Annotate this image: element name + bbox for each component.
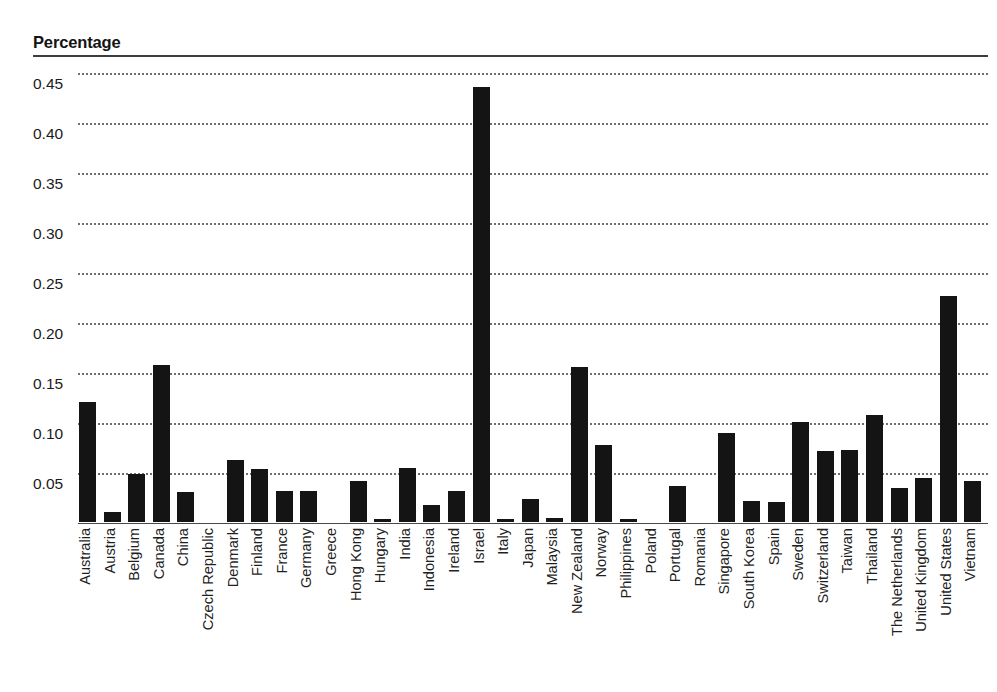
x-axis-tick-label: Singapore (717, 528, 732, 678)
x-axis-tick-label: Vietnam (963, 528, 978, 678)
y-axis-tick-label: 0.35 (33, 176, 75, 192)
bar (546, 518, 563, 522)
x-axis-tick-label: The Netherlands (890, 528, 905, 678)
chart-header: Percentage (33, 33, 988, 57)
x-axis-tick-label: Canada (152, 528, 167, 678)
x-axis-tick-labels: AustraliaAustriaBelgiumCanadaChinaCzech … (78, 528, 997, 678)
x-axis-tick-label: Portugal (668, 528, 683, 678)
bar (251, 469, 268, 522)
bar (350, 481, 367, 522)
bar (571, 367, 588, 522)
bar (866, 415, 883, 522)
bar (374, 519, 391, 522)
x-axis-tick-label: Hungary (373, 528, 388, 678)
bar (669, 486, 686, 522)
x-axis-tick-label: Poland (644, 528, 659, 678)
chart-figure: Percentage 0.450.400.350.300.250.200.150… (0, 0, 997, 692)
bar (915, 478, 932, 522)
x-axis-tick-label: Belgium (127, 528, 142, 678)
x-axis-tick-label: Australia (78, 528, 93, 678)
bar (399, 468, 416, 522)
y-axis-tick-label: 0.20 (33, 326, 75, 342)
x-axis-tick-label: Philippines (619, 528, 634, 678)
x-axis-tick-label: India (398, 528, 413, 678)
x-axis-tick-label: Japan (521, 528, 536, 678)
bar (718, 433, 735, 522)
x-axis-tick-label: France (275, 528, 290, 678)
bar (177, 492, 194, 522)
x-axis-tick-label: Malaysia (545, 528, 560, 678)
x-axis-tick-label: Czech Republic (201, 528, 216, 678)
x-axis-tick-label: South Korea (742, 528, 757, 678)
x-axis-tick-label: Germany (299, 528, 314, 678)
x-axis-tick-label: Hong Kong (349, 528, 364, 678)
bar (595, 445, 612, 522)
x-axis-tick-label: Austria (103, 528, 118, 678)
bar (940, 296, 957, 522)
bar (104, 512, 121, 522)
bar (227, 460, 244, 522)
plot-area: 0.450.400.350.300.250.200.150.100.05 (33, 60, 988, 524)
y-axis-tick-label: 0.05 (33, 476, 75, 492)
bar (423, 505, 440, 522)
x-axis-tick-label: Sweden (791, 528, 806, 678)
bar (841, 450, 858, 522)
bar (153, 365, 170, 522)
bars-group (78, 60, 988, 523)
y-axis-tick-label: 0.25 (33, 276, 75, 292)
x-axis-tick-label: China (176, 528, 191, 678)
bar (964, 481, 981, 522)
bar (817, 451, 834, 522)
bar (620, 519, 637, 522)
bar (792, 422, 809, 522)
x-axis-tick-label: Thailand (865, 528, 880, 678)
bar (497, 519, 514, 522)
bar (891, 488, 908, 522)
x-axis-tick-label: Greece (324, 528, 339, 678)
bar (276, 491, 293, 522)
x-axis-tick-label: Italy (496, 528, 511, 678)
bar (473, 87, 490, 522)
bar (128, 474, 145, 522)
x-axis-tick-label: Switzerland (816, 528, 831, 678)
bar (522, 499, 539, 522)
bar (448, 491, 465, 522)
bar (79, 402, 96, 522)
y-axis-tick-label: 0.15 (33, 376, 75, 392)
page-title: Percentage (33, 33, 988, 52)
x-axis-tick-label: Denmark (226, 528, 241, 678)
y-axis-tick-label: 0.30 (33, 226, 75, 242)
x-axis-tick-label: Romania (693, 528, 708, 678)
bar (300, 491, 317, 522)
title-divider (33, 55, 988, 57)
x-axis-tick-label: Ireland (447, 528, 462, 678)
x-axis-tick-label: Norway (594, 528, 609, 678)
x-axis-tick-label: Spain (767, 528, 782, 678)
x-axis-tick-label: United States (939, 528, 954, 678)
y-axis-tick-label: 0.45 (33, 76, 75, 92)
x-axis-line (78, 523, 988, 524)
x-axis-tick-label: Indonesia (422, 528, 437, 678)
y-axis-tick-label: 0.40 (33, 126, 75, 142)
x-axis-tick-label: New Zealand (570, 528, 585, 678)
x-axis-tick-label: Finland (250, 528, 265, 678)
x-axis-tick-label: United Kingdom (914, 528, 929, 678)
x-axis-tick-label: Israel (472, 528, 487, 678)
x-axis-tick-label: Taiwan (840, 528, 855, 678)
y-axis-tick-label: 0.10 (33, 426, 75, 442)
bar (768, 502, 785, 522)
bar (743, 501, 760, 522)
